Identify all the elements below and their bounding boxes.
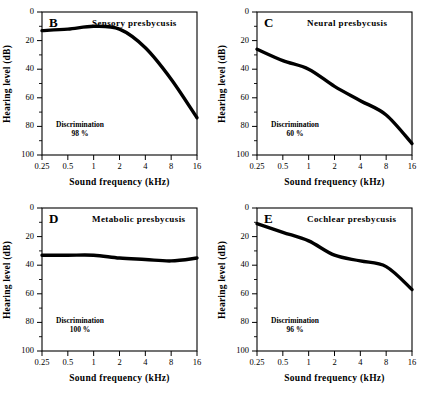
x-tick-label: 2 [321, 357, 349, 367]
x-tick-label: 16 [183, 357, 211, 367]
x-tick-label: 4 [131, 357, 159, 367]
panel-d: 0204060801000.250.5124816Hearing level (… [0, 196, 215, 393]
panel-e: 0204060801000.250.5124816Hearing level (… [215, 196, 430, 393]
x-tick-label: 1 [80, 161, 108, 171]
x-axis-label: Sound frequency (kHz) [257, 177, 412, 187]
x-tick-label: 4 [346, 357, 374, 367]
x-tick-label: 0.5 [54, 357, 82, 367]
y-axis-label: Hearing level (dB) [0, 208, 15, 351]
y-axis-label-text: Hearing level (dB) [2, 240, 12, 318]
audiogram-curve-d [42, 255, 197, 261]
x-tick-label: 16 [398, 161, 426, 171]
panel-title-d: Metabolic presbycusis [92, 214, 185, 224]
x-tick-label: 2 [106, 161, 134, 171]
panel-letter-d: D [49, 211, 58, 227]
x-tick-label: 0.25 [28, 357, 56, 367]
y-axis-label-text: Hearing level (dB) [217, 44, 227, 122]
panel-c: 0204060801000.250.5124816Hearing level (… [215, 0, 430, 196]
x-tick-label: 16 [183, 161, 211, 171]
x-tick-label: 4 [346, 161, 374, 171]
presbycusis-audiogram-figure: 0204060801000.250.5124816Hearing level (… [0, 0, 430, 393]
audiogram-curve-b [42, 26, 197, 118]
discrimination-value: 98 % [56, 129, 104, 138]
y-axis-label: Hearing level (dB) [214, 208, 230, 351]
panel-title-c: Neural presbycusis [307, 18, 387, 28]
x-tick-label: 8 [157, 161, 185, 171]
y-axis-label: Hearing level (dB) [214, 12, 230, 155]
panel-letter-c: C [264, 15, 273, 31]
x-tick-label: 0.5 [269, 161, 297, 171]
y-axis-label-text: Hearing level (dB) [217, 240, 227, 318]
panel-letter-b: B [49, 15, 58, 31]
x-tick-label: 0.25 [243, 161, 271, 171]
x-tick-label: 16 [398, 357, 426, 367]
x-tick-label: 1 [295, 357, 323, 367]
x-tick-label: 8 [157, 357, 185, 367]
discrimination-c: Discrimination60 % [271, 120, 319, 139]
x-tick-label: 1 [295, 161, 323, 171]
x-tick-label: 2 [106, 357, 134, 367]
discrimination-label: Discrimination [56, 120, 104, 129]
x-axis-label: Sound frequency (kHz) [42, 373, 197, 383]
x-tick-label: 0.5 [269, 357, 297, 367]
x-tick-label: 4 [131, 161, 159, 171]
panel-b: 0204060801000.250.5124816Hearing level (… [0, 0, 215, 196]
discrimination-b: Discrimination98 % [56, 120, 104, 139]
discrimination-label: Discrimination [271, 316, 319, 325]
discrimination-value: 100 % [56, 325, 104, 334]
x-tick-label: 8 [372, 357, 400, 367]
discrimination-value: 60 % [271, 129, 319, 138]
discrimination-label: Discrimination [271, 120, 319, 129]
panel-letter-e: E [264, 211, 273, 227]
x-tick-label: 8 [372, 161, 400, 171]
x-tick-label: 0.25 [243, 357, 271, 367]
discrimination-e: Discrimination96 % [271, 316, 319, 335]
discrimination-d: Discrimination100 % [56, 316, 104, 335]
x-tick-label: 1 [80, 357, 108, 367]
panel-title-e: Cochlear presbycusis [307, 214, 396, 224]
panel-title-b: Sensory presbycusis [92, 18, 177, 28]
y-axis-label: Hearing level (dB) [0, 12, 15, 155]
x-axis-label: Sound frequency (kHz) [257, 373, 412, 383]
audiogram-curve-e [257, 224, 412, 290]
x-tick-label: 0.5 [54, 161, 82, 171]
y-axis-label-text: Hearing level (dB) [2, 44, 12, 122]
discrimination-value: 96 % [271, 325, 319, 334]
x-tick-label: 0.25 [28, 161, 56, 171]
x-tick-label: 2 [321, 161, 349, 171]
discrimination-label: Discrimination [56, 316, 104, 325]
x-axis-label: Sound frequency (kHz) [42, 177, 197, 187]
